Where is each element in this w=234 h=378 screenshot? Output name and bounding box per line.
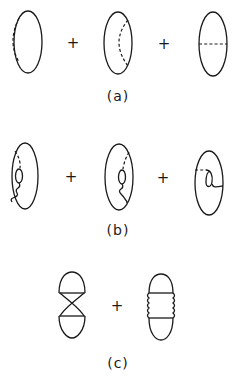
diagram-a3-horizontal-dashed-chord [199,12,227,76]
plus-sign: + [111,297,124,315]
plus-sign: + [67,34,80,52]
plus-sign: + [158,35,171,53]
row-b: + + (b) [11,143,223,238]
diagram-b2-right-loop-insertion [105,144,133,210]
row-c: + (c) [59,272,175,371]
diagram-a2-right-dashed-arc [104,12,132,74]
diagram-canvas: + + (a) + + [0,0,234,378]
row-a: + + (a) [13,11,227,104]
diagram-c2-wavy-ladder [148,274,175,340]
row-label-b: (b) [107,222,130,238]
diagram-b3-tadpole-loop [195,151,223,215]
diagram-c1-crossed-bubbles [59,272,85,338]
plus-sign: + [65,168,78,186]
diagram-a1-left-dashed-arc [13,11,42,73]
diagram-b1-left-loop-insertion [11,143,38,209]
row-label-a: (a) [107,88,130,104]
row-label-c: (c) [107,355,129,371]
plus-sign: + [157,169,170,187]
